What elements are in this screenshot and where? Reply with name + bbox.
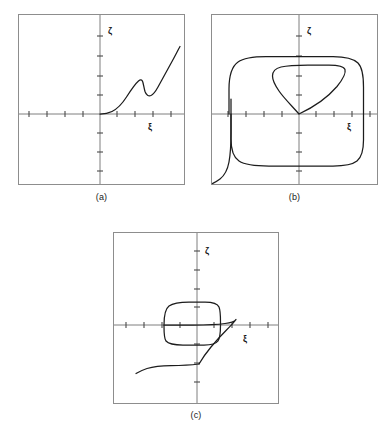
panel-c-x-axis-label: ξ bbox=[243, 334, 247, 344]
panel-c: ξ ζ (c) bbox=[113, 232, 279, 404]
panel-c-y-axis-label: ζ bbox=[205, 246, 209, 256]
panel-a-frame bbox=[19, 15, 185, 185]
panel-b-plot: ξ ζ bbox=[211, 14, 378, 185]
figure-root: ξ ζ (a) bbox=[0, 0, 389, 429]
panel-a: ξ ζ (a) bbox=[18, 14, 185, 185]
panel-a-x-axis-label: ξ bbox=[148, 122, 152, 132]
panel-a-y-axis-label: ζ bbox=[108, 26, 112, 36]
panel-b-x-axis-label: ξ bbox=[347, 122, 351, 132]
panel-c-loop bbox=[164, 302, 221, 345]
panel-c-tail bbox=[136, 364, 199, 374]
panel-a-curve bbox=[100, 47, 180, 115]
panel-b-inner-loop bbox=[273, 65, 346, 114]
panel-b-caption: (b) bbox=[211, 192, 378, 202]
panel-b-tail bbox=[213, 114, 232, 184]
panel-c-plot: ξ ζ bbox=[113, 232, 279, 404]
panel-c-caption: (c) bbox=[113, 410, 279, 420]
panel-a-plot: ξ ζ bbox=[18, 14, 185, 185]
panel-a-caption: (a) bbox=[18, 192, 185, 202]
panel-c-beak bbox=[164, 320, 236, 365]
panel-b: ξ ζ (b) bbox=[211, 14, 378, 185]
panel-c-frame bbox=[114, 233, 279, 404]
panel-b-y-axis-label: ζ bbox=[307, 26, 311, 36]
